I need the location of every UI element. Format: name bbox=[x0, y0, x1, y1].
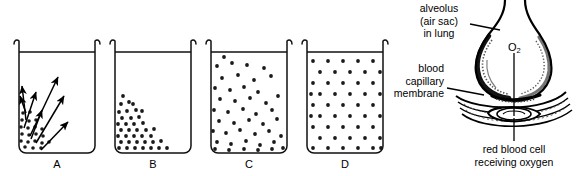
membrane-annotation-line-3: membrane bbox=[378, 87, 444, 100]
membrane-annotation-line-1: blood bbox=[378, 62, 444, 75]
beaker-d bbox=[302, 40, 388, 153]
beaker-label-d: D bbox=[325, 158, 365, 170]
beaker-b bbox=[110, 40, 196, 153]
beaker-d-outline bbox=[302, 40, 388, 153]
red-cell-annotation-line-1: red blood cell bbox=[444, 143, 580, 156]
membrane-leader-line bbox=[447, 88, 484, 95]
membrane-annotation-line-2: capillary bbox=[378, 75, 444, 88]
beaker-label-c: C bbox=[229, 158, 269, 170]
alveolus-annotation: alveolus (air sac) in lung bbox=[406, 2, 472, 40]
beaker-c bbox=[206, 40, 292, 153]
beaker-label-a: A bbox=[37, 158, 77, 170]
capillary-membrane-annotation: blood capillary membrane bbox=[378, 62, 444, 100]
red-cell-annotation-line-2: receiving oxygen bbox=[444, 156, 580, 169]
oxygen-symbol: O bbox=[508, 41, 517, 53]
oxygen-label: O2 bbox=[508, 42, 521, 54]
alveolus-annotation-line-1: alveolus bbox=[406, 2, 472, 15]
diffusion-and-gas-exchange-figure: A B C D alveolus (air sac) in lung blood… bbox=[0, 0, 580, 176]
alveolus-annotation-line-2: (air sac) bbox=[406, 15, 472, 28]
red-blood-cell-annotation: red blood cell receiving oxygen bbox=[444, 143, 580, 168]
alveolus-annotation-line-3: in lung bbox=[406, 27, 472, 40]
beaker-a bbox=[14, 40, 100, 153]
beaker-label-b: B bbox=[133, 158, 173, 170]
oxygen-subscript: 2 bbox=[517, 46, 521, 55]
beaker-a-outline bbox=[14, 40, 100, 153]
